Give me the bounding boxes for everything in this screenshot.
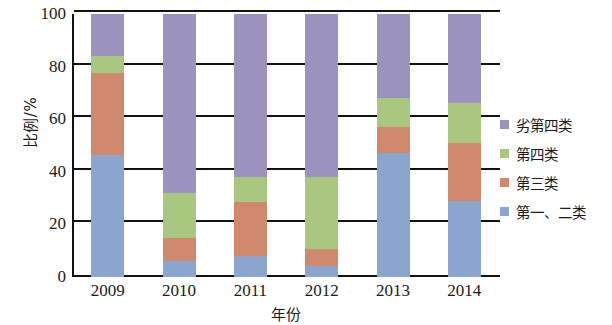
bar-segment[interactable]	[163, 193, 196, 238]
bar-column[interactable]	[448, 14, 481, 277]
bar-stack	[234, 14, 267, 277]
x-tick-label: 2012	[286, 281, 357, 301]
x-tick-label: 2014	[429, 281, 500, 301]
x-tick-label: 2009	[72, 281, 143, 301]
y-tick-label: 0	[10, 268, 66, 285]
legend-swatch-icon	[500, 178, 509, 187]
bar-segment[interactable]	[91, 73, 124, 155]
stacked-bar-chart: 比例/% 020406080100 2009201020112012201320…	[0, 0, 612, 325]
x-tick-label: 2011	[215, 281, 286, 301]
bar-segment[interactable]	[163, 261, 196, 277]
bar-segment[interactable]	[91, 155, 124, 277]
bar-column[interactable]	[163, 14, 196, 277]
legend-label: 第一、二类	[516, 201, 586, 222]
bar-column[interactable]	[305, 14, 338, 277]
bars-layer	[72, 14, 500, 277]
bar-stack	[377, 14, 410, 277]
bar-segment[interactable]	[448, 14, 481, 103]
bar-segment[interactable]	[234, 177, 267, 202]
bar-segment[interactable]	[234, 256, 267, 277]
bar-stack	[448, 14, 481, 277]
legend-item[interactable]: 劣第四类	[500, 110, 612, 139]
bar-segment[interactable]	[163, 14, 196, 193]
legend-item[interactable]: 第四类	[500, 139, 612, 168]
legend: 劣第四类第四类第三类第一、二类	[500, 110, 612, 226]
legend-swatch-icon	[500, 120, 509, 129]
bar-segment[interactable]	[163, 238, 196, 262]
x-tick-label: 2013	[357, 281, 428, 301]
bar-segment[interactable]	[448, 143, 481, 201]
legend-label: 第四类	[516, 143, 558, 164]
x-tick-label: 2010	[143, 281, 214, 301]
y-tick-label: 40	[10, 163, 66, 180]
legend-label: 第三类	[516, 172, 558, 193]
legend-swatch-icon	[500, 207, 509, 216]
bar-segment[interactable]	[377, 98, 410, 127]
bar-segment[interactable]	[377, 14, 410, 98]
bar-segment[interactable]	[305, 249, 338, 266]
legend-item[interactable]: 第三类	[500, 168, 612, 197]
y-tick-label: 60	[10, 110, 66, 127]
bar-segment[interactable]	[305, 266, 338, 277]
bar-segment[interactable]	[234, 14, 267, 177]
bar-segment[interactable]	[448, 201, 481, 277]
bar-stack	[305, 14, 338, 277]
bar-segment[interactable]	[91, 56, 124, 73]
bar-segment[interactable]	[305, 14, 338, 177]
bar-stack	[91, 14, 124, 277]
gridline	[74, 10, 500, 12]
y-axis-tick-labels: 020406080100	[6, 14, 66, 277]
x-axis-title: 年份	[72, 303, 500, 324]
bar-segment[interactable]	[91, 14, 124, 56]
bar-column[interactable]	[377, 14, 410, 277]
bar-segment[interactable]	[448, 103, 481, 142]
y-tick-label: 20	[10, 215, 66, 232]
bar-segment[interactable]	[377, 153, 410, 277]
legend-label: 劣第四类	[516, 114, 572, 135]
bar-segment[interactable]	[305, 177, 338, 249]
bar-column[interactable]	[91, 14, 124, 277]
x-axis-tick-labels: 200920102011201220132014	[72, 281, 500, 305]
y-tick-label: 100	[10, 5, 66, 22]
bar-stack	[163, 14, 196, 277]
legend-swatch-icon	[500, 149, 509, 158]
legend-item[interactable]: 第一、二类	[500, 197, 612, 226]
y-tick-label: 80	[10, 58, 66, 75]
bar-segment[interactable]	[234, 202, 267, 256]
bar-column[interactable]	[234, 14, 267, 277]
bar-segment[interactable]	[377, 127, 410, 153]
